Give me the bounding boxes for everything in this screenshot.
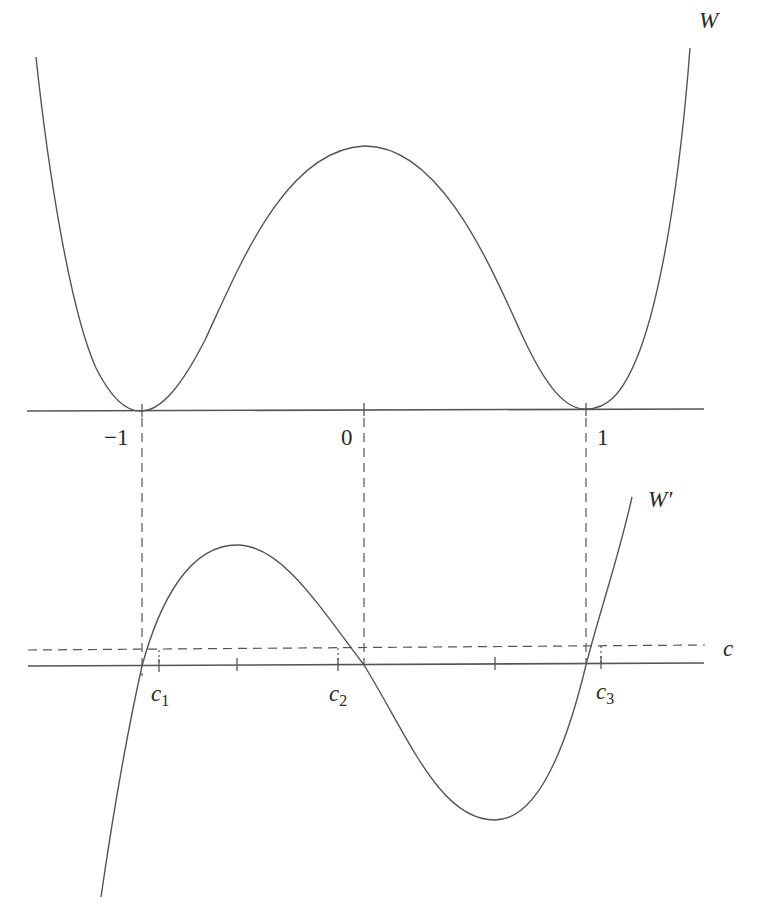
level-c-line: [28, 645, 705, 650]
tick-label-one: 1: [597, 425, 609, 450]
bottom-plot-w-prime: W′ c c1 c2 c3: [28, 487, 733, 897]
w-label: W: [699, 8, 720, 33]
tick-label-minus-one: −1: [104, 425, 128, 450]
tick-label-zero: 0: [341, 425, 353, 450]
w-prime-label: W′: [648, 487, 673, 512]
w-curve: [36, 48, 690, 411]
top-x-axis: [27, 409, 704, 411]
w-prime-curve: [101, 497, 632, 897]
root-label-c1: c1: [151, 681, 169, 709]
connector-lines: [142, 418, 586, 676]
root-label-c3: c3: [596, 679, 614, 707]
double-well-figure: W −1 0 1 W′ c c1 c2 c3: [0, 0, 764, 918]
bottom-x-axis: [28, 663, 704, 666]
level-c-label: c: [723, 636, 733, 661]
root-label-c2: c2: [329, 681, 347, 709]
top-plot-w: W −1 0 1: [27, 8, 720, 450]
